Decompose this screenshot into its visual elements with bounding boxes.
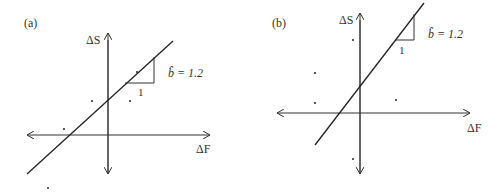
regression-line [315, 3, 424, 145]
y-axis-label: ΔS [339, 13, 353, 27]
regression-line [27, 41, 173, 174]
panel-b: (b) ΔS ΔF 1 b̂ = 1.2 [272, 3, 482, 174]
data-point [91, 100, 93, 102]
x-axis-label: ΔF [196, 142, 211, 156]
data-point [314, 72, 316, 74]
x-axis-label: ΔF [467, 121, 482, 135]
data-points [47, 71, 138, 189]
panel-a-label: (a) [24, 16, 37, 30]
data-point [63, 128, 65, 130]
data-point [136, 71, 138, 73]
diagram-canvas: (a) ΔS ΔF 1 b̂ = 1.2 (b) ΔS ΔF 1 b̂ = 1.… [0, 0, 496, 192]
data-point [47, 187, 49, 189]
data-point [314, 102, 316, 104]
slope-triangle [125, 57, 154, 83]
panel-a: (a) ΔS ΔF 1 b̂ = 1.2 [24, 16, 211, 189]
data-point [352, 158, 354, 160]
data-point [129, 100, 131, 102]
panel-b-label: (b) [272, 16, 286, 30]
data-points [314, 39, 397, 160]
slope-run-label: 1 [138, 86, 144, 98]
slope-label: b̂ = 1.2 [428, 27, 463, 41]
y-axis-label: ΔS [86, 33, 100, 47]
data-point [395, 99, 397, 101]
slope-run-label: 1 [399, 44, 405, 56]
slope-label: b̂ = 1.2 [168, 66, 203, 80]
data-point [352, 39, 354, 41]
